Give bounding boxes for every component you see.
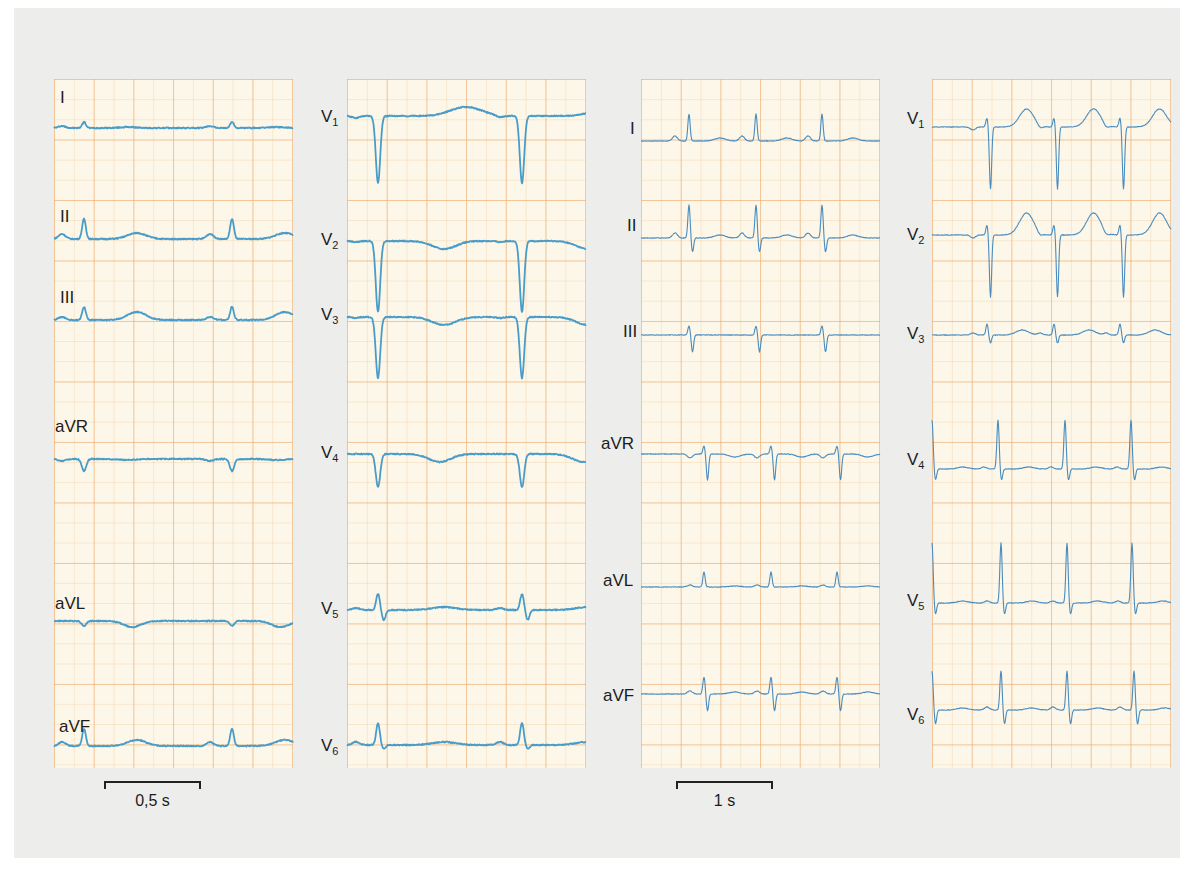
lead-label-aVF: aVF [59,718,90,735]
ecg-trace-V2 [347,241,586,312]
ecg-panel-chest-leads-1 [347,79,586,768]
ecg-traces [54,79,293,768]
ecg-panel-limb-leads-2 [641,79,880,768]
ecg-panel-limb-leads-1 [54,79,293,768]
lead-label-V5: V5 [907,592,924,612]
lead-label-aVR: aVR [55,418,88,435]
lead-label-II: II [627,217,636,234]
ecg-trace-V3 [347,317,586,379]
ecg-trace-V4 [932,420,1171,480]
lead-label-V3: V3 [907,325,924,345]
time-scale-bar-half-second [104,781,201,789]
ecg-trace-V5 [932,543,1171,614]
lead-label-V2: V2 [321,231,338,251]
ecg-trace-aVR [641,446,880,480]
ecg-traces [347,79,586,768]
ecg-trace-aVR [54,459,293,472]
lead-label-I: I [630,120,635,137]
lead-label-V4: V4 [321,444,338,464]
ecg-trace-V1 [932,109,1171,189]
lead-label-I: I [60,89,65,106]
time-scale-label-half-second: 0,5 s [104,792,201,810]
lead-label-aVL: aVL [55,595,85,612]
ecg-trace-V6 [347,723,586,749]
ecg-trace-II [54,219,293,240]
ecg-trace-V1 [347,107,586,184]
time-scale-bar-one-second [676,781,773,789]
ecg-trace-III [641,326,880,352]
ecg-trace-V2 [932,213,1171,297]
ecg-trace-V5 [347,594,586,620]
ecg-trace-aVL [54,621,293,628]
lead-label-V4: V4 [907,451,924,471]
lead-label-II: II [60,208,69,225]
ecg-trace-I [54,122,293,129]
lead-label-V6: V6 [321,737,338,757]
ecg-trace-V3 [932,324,1171,343]
ecg-trace-V6 [932,671,1171,724]
time-scale-label-one-second: 1 s [676,792,773,810]
lead-label-III: III [60,289,74,306]
ecg-trace-II [641,205,880,252]
ecg-trace-aVL [641,572,880,588]
ecg-trace-I [641,114,880,141]
ecg-trace-V4 [347,454,586,487]
lead-label-V2: V2 [907,226,924,246]
lead-label-aVR: aVR [601,435,634,452]
lead-label-aVF: aVF [603,687,634,704]
ecg-traces [641,79,880,768]
lead-label-aVL: aVL [603,572,633,589]
lead-label-V6: V6 [907,706,924,726]
ecg-traces [932,79,1171,768]
lead-label-V3: V3 [321,306,338,326]
ecg-trace-aVF [641,677,880,711]
lead-label-III: III [623,323,637,340]
lead-label-V5: V5 [321,600,338,620]
ecg-trace-III [54,307,293,321]
lead-label-V1: V1 [321,108,338,128]
ecg-panel-chest-leads-2 [932,79,1171,768]
lead-label-V1: V1 [907,110,924,130]
